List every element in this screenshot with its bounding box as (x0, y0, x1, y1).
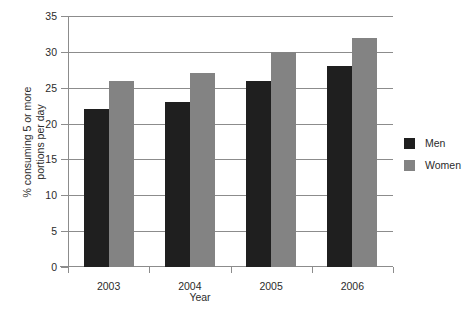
x-axis-tick (312, 267, 313, 273)
x-axis-tick-label: 2003 (97, 281, 120, 292)
x-axis-tick-label: 2005 (259, 281, 282, 292)
legend-item: Men (404, 132, 461, 154)
y-axis-tick (61, 267, 68, 268)
bar (352, 38, 377, 267)
y-axis-tick (61, 88, 68, 89)
y-axis-title: % consuming 5 or more portions per day (21, 58, 47, 226)
y-axis-tick-label: 30 (45, 47, 57, 58)
y-axis-tick (61, 52, 68, 53)
plot-area: 05101520253035 2003200420052006 % consum… (68, 16, 393, 267)
x-axis-title: Year (0, 291, 400, 303)
x-axis-tick (393, 267, 394, 273)
legend-label: Men (425, 138, 445, 149)
legend-item: Women (404, 154, 461, 176)
x-axis-tick (68, 267, 69, 273)
bar (271, 52, 296, 267)
y-axis-tick-label: 15 (45, 154, 57, 165)
bar-series-layer (68, 16, 393, 267)
bar (190, 73, 215, 267)
bar (165, 102, 190, 267)
y-axis-tick-label: 35 (45, 11, 57, 22)
legend-swatch-icon (404, 138, 415, 149)
y-axis-tick (61, 159, 68, 160)
bar (109, 81, 134, 267)
x-axis-tick (231, 267, 232, 273)
bar (327, 66, 352, 267)
x-axis-tick (149, 267, 150, 273)
legend: MenWomen (404, 132, 461, 176)
legend-label: Women (425, 160, 461, 171)
bar (246, 81, 271, 267)
y-axis-tick (61, 195, 68, 196)
y-axis-tick (61, 231, 68, 232)
y-axis-tick-label: 0 (51, 262, 57, 273)
x-axis-tick-label: 2006 (341, 281, 364, 292)
y-axis-tick-label: 20 (45, 118, 57, 129)
bar-chart: 05101520253035 2003200420052006 % consum… (0, 0, 473, 321)
y-axis-tick (61, 124, 68, 125)
x-axis-tick-label: 2004 (178, 281, 201, 292)
legend-swatch-icon (404, 160, 415, 171)
y-axis-tick-label: 25 (45, 82, 57, 93)
y-axis-tick (61, 16, 68, 17)
y-axis-tick-label: 5 (51, 226, 57, 237)
bar (84, 109, 109, 267)
y-axis-tick-label: 10 (45, 190, 57, 201)
